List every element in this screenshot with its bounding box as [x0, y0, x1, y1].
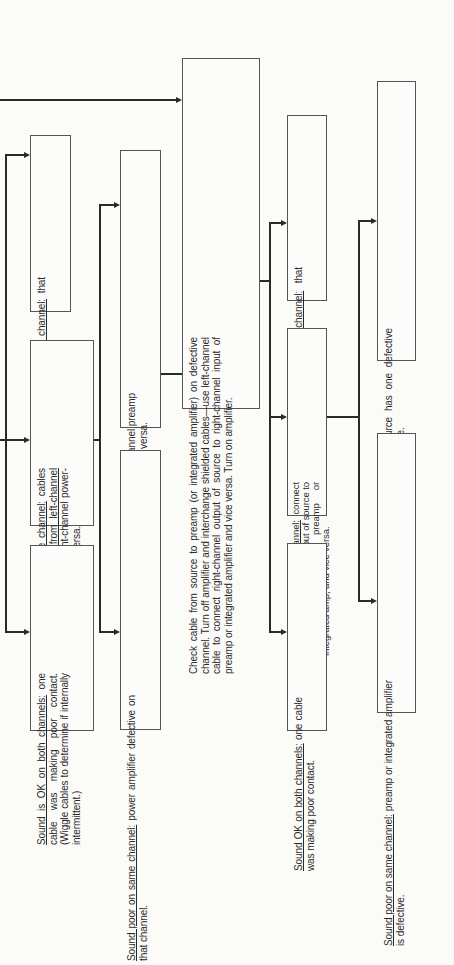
condition-label: Sound OK on both channels: — [293, 743, 304, 871]
condition-label: Sound is OK on both channels: — [36, 695, 47, 845]
box-same-channel-swap-source-output: Sound poor on same channel: connect cabl… — [287, 328, 327, 516]
box-same-channel-cables-ok: Sound poor on same channel: cables OK. C… — [30, 340, 94, 526]
condition-label: Sound poor on same channel: — [126, 825, 137, 961]
box-check-cable-source-to-preamp: Check cable from source to preamp (or in… — [182, 58, 260, 409]
instruction-text: Check cable from source to preamp (or in… — [188, 337, 234, 674]
box-ok-both-channels-wiggle: Sound is OK on both channels: one cable … — [30, 545, 94, 731]
box-other-channel-source-cable-defective: Sound poor on other channel: that cable … — [287, 115, 327, 301]
box-other-channel-reconnect-preamp: Sound poor on other channel: reconnect l… — [120, 150, 161, 428]
box-ok-both-channels-poor-contact: Sound OK on both channels: one cable was… — [287, 543, 327, 731]
connector-col3-vertical — [269, 222, 271, 632]
box-other-channel-cable-defective: Sound poor on other channel: that cable … — [30, 135, 71, 312]
box-same-channel-preamp-defective: Sound poor on same channel: preamp or in… — [377, 433, 416, 713]
box-other-channel-source-defective: Sound poor on other channel: source has … — [377, 81, 416, 361]
connector-b8-out — [326, 416, 360, 418]
connector-col4-vertical — [358, 220, 360, 602]
connector-entry — [0, 99, 178, 101]
connector-col2-vertical — [99, 204, 101, 632]
connector-left-vertical — [5, 154, 7, 632]
condition-label: Sound poor on same channel: — [383, 814, 394, 946]
box-same-channel-power-amp-defective: Sound poor on same channel: power amplif… — [120, 450, 161, 730]
